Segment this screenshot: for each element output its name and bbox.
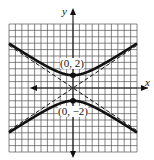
vertex-top-label: (0, 2) [60,58,84,69]
hyperbola-plot [0,0,154,160]
y-axis-label: y [62,6,67,17]
x-axis-label: x [145,77,150,88]
vertex-bottom-label: (0, −2) [58,106,88,117]
